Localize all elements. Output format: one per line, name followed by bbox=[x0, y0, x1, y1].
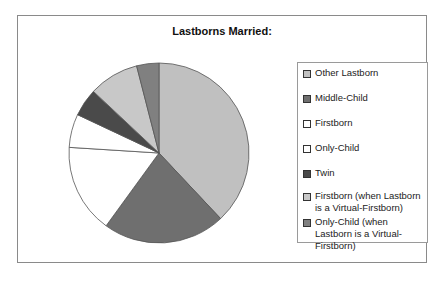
legend-swatch bbox=[303, 145, 311, 153]
legend-swatch bbox=[303, 95, 311, 103]
legend-item-firstborn: Firstborn bbox=[303, 117, 427, 129]
legend-label: Twin bbox=[315, 167, 335, 179]
legend-label: Only-Child bbox=[315, 142, 359, 154]
legend-swatch bbox=[303, 70, 311, 78]
legend-swatch bbox=[303, 193, 311, 201]
legend-label: Other Lastborn bbox=[315, 67, 378, 79]
legend-label: Only-Child (when Lastborn is a Virtual-F… bbox=[315, 216, 427, 252]
legend-swatch bbox=[303, 170, 311, 178]
legend-item-middle-child: Middle-Child bbox=[303, 92, 427, 104]
legend-item-twin: Twin bbox=[303, 167, 427, 179]
legend-label: Firstborn (when Lastborn is a Virtual-Fi… bbox=[315, 190, 427, 214]
legend-item-other-lastborn: Other Lastborn bbox=[303, 67, 427, 79]
legend-label: Firstborn bbox=[315, 117, 352, 129]
legend-label: Middle-Child bbox=[315, 92, 368, 104]
legend-item-only-child-virtual: Only-Child (when Lastborn is a Virtual-F… bbox=[303, 216, 427, 252]
legend-swatch bbox=[303, 120, 311, 128]
legend-swatch bbox=[303, 219, 311, 227]
legend-item-only-child: Only-Child bbox=[303, 142, 427, 154]
legend: Other Lastborn Middle-Child Firstborn On… bbox=[297, 62, 428, 243]
legend-item-firstborn-virtual: Firstborn (when Lastborn is a Virtual-Fi… bbox=[303, 190, 427, 214]
